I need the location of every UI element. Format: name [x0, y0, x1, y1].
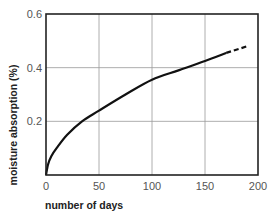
x-axis-ticks: 050100150200 — [43, 180, 267, 192]
x-tick-label: 0 — [43, 180, 49, 192]
x-axis-label: number of days — [45, 199, 123, 211]
grid-lines — [46, 14, 258, 175]
x-tick-label: 50 — [93, 180, 105, 192]
x-tick-label: 100 — [143, 180, 161, 192]
extrapolated-curve — [226, 46, 247, 53]
x-tick-label: 150 — [196, 180, 214, 192]
y-tick-label: 0.6 — [27, 8, 42, 20]
chart: 0.20.40.6 050100150200 moisture absorpti… — [0, 0, 276, 217]
data-curves — [46, 46, 247, 175]
y-axis-ticks: 0.20.40.6 — [27, 8, 42, 127]
x-tick-label: 200 — [249, 180, 267, 192]
y-tick-label: 0.2 — [27, 115, 42, 127]
y-tick-label: 0.4 — [27, 62, 42, 74]
measured-curve — [46, 53, 226, 175]
y-axis-label: moisture absorption (%) — [7, 65, 19, 186]
